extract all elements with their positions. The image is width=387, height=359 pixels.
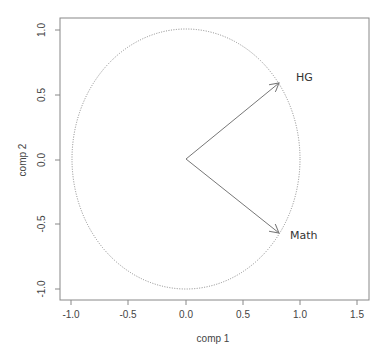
y-tick-label: 0.5 — [36, 88, 47, 102]
x-axis — [71, 300, 357, 305]
x-tick-label: 0.5 — [236, 309, 250, 320]
y-tick-label: -1.0 — [36, 280, 47, 298]
y-tick-label: 1.0 — [36, 23, 47, 37]
label-math: Math — [290, 229, 318, 242]
x-axis-label: comp 1 — [197, 333, 230, 344]
y-tick-label: -0.5 — [36, 215, 47, 233]
arrow-hg — [186, 83, 279, 159]
arrow-math — [186, 159, 279, 233]
y-axis — [55, 30, 60, 289]
label-hg: HG — [296, 71, 313, 84]
y-tick-label: 0.0 — [36, 153, 47, 167]
x-tick-label: -1.0 — [62, 309, 80, 320]
correlation-circle-chart: HG Math -1.0 -0.5 0.0 0.5 1.0 1.5 comp 1… — [0, 0, 387, 359]
x-tick-label: 1.5 — [350, 309, 364, 320]
y-axis-label: comp 2 — [17, 143, 28, 176]
x-tick-label: 1.0 — [293, 309, 307, 320]
x-tick-label: 0.0 — [179, 309, 193, 320]
x-tick-label: -0.5 — [119, 309, 137, 320]
plot-frame — [60, 18, 369, 300]
